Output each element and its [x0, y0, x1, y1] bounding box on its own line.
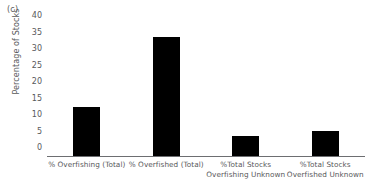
- y-tick-label: 35: [0, 27, 47, 36]
- x-tick-label-line: Overfished Unknown: [286, 170, 366, 180]
- x-tick-label: % Overfishing (Total): [47, 160, 127, 179]
- y-tick-label: 25: [0, 60, 47, 69]
- x-tick-label: %Total StocksOverfished Unknown: [286, 160, 366, 179]
- x-tick-label: % Overfished (Total): [127, 160, 207, 179]
- y-tick-label: 5: [0, 126, 47, 135]
- x-axis-line: [47, 156, 365, 157]
- bar-slot: [127, 24, 207, 156]
- x-axis-tick-labels: % Overfishing (Total)% Overfished (Total…: [47, 160, 365, 179]
- y-tick-label: 20: [0, 77, 47, 86]
- bar: [312, 131, 339, 156]
- bar: [153, 37, 180, 156]
- x-tick-label-line: %Total Stocks: [286, 160, 366, 170]
- y-tick-label: 15: [0, 93, 47, 102]
- bar-slot: [206, 24, 286, 156]
- bar-slot: [286, 24, 366, 156]
- bar: [232, 136, 259, 156]
- bar-slot: [47, 24, 127, 156]
- y-tick-label: 10: [0, 110, 47, 119]
- y-tick-label: 30: [0, 44, 47, 53]
- x-tick-label-line: % Overfished (Total): [127, 160, 207, 170]
- y-tick-label: 0: [0, 143, 47, 152]
- x-tick-label: %Total StocksOverfishing Unknown: [206, 160, 286, 179]
- x-tick-label-line: %Total Stocks: [206, 160, 286, 170]
- x-tick-label-line: Overfishing Unknown: [206, 170, 286, 180]
- plot-area: 4035302520151050: [47, 24, 365, 157]
- bar-chart-panel-c: (c) Percentage of Stocks 403530252015105…: [0, 0, 372, 195]
- x-tick-label-line: % Overfishing (Total): [47, 160, 127, 170]
- y-tick-label: 40: [0, 11, 47, 20]
- bar: [73, 107, 100, 157]
- bar-series: [47, 24, 365, 156]
